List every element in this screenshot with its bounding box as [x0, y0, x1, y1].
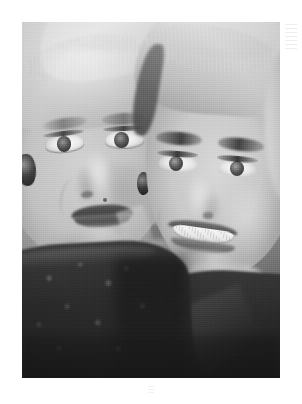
- right-woman-nostril: [203, 212, 214, 218]
- right-woman-iris-left: [169, 156, 183, 171]
- scan-speck-bottom-center-artifact: [148, 386, 154, 395]
- left-woman-iris-left: [57, 136, 71, 152]
- left-woman-iris-right: [114, 132, 129, 148]
- photograph: [22, 22, 280, 378]
- clothing-bottom-shadow: [22, 335, 280, 378]
- right-woman-iris-right: [230, 161, 244, 176]
- page: Grayscale selfie photograph of two smili…: [0, 0, 302, 404]
- scan-streak-top-right-artifact: [285, 24, 297, 50]
